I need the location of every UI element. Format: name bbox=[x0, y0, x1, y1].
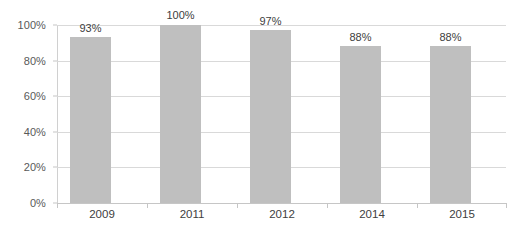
bars-layer bbox=[57, 25, 506, 203]
y-tick-label-0: 0% bbox=[30, 197, 46, 209]
bar-2012[interactable] bbox=[250, 30, 291, 203]
x-tick-label-2014: 2014 bbox=[332, 208, 412, 220]
bar-chart: 100% 80% 60% 40% 20% 0% 93% 100% 97% 88%… bbox=[0, 0, 513, 235]
data-label-2011: 100% bbox=[151, 9, 211, 21]
y-tick-label-20: 20% bbox=[24, 161, 46, 173]
x-tick-label-2012: 2012 bbox=[242, 208, 322, 220]
bar-2009[interactable] bbox=[70, 37, 111, 203]
bar-2011[interactable] bbox=[160, 25, 201, 203]
x-tick-label-2011: 2011 bbox=[152, 208, 232, 220]
x-tick-label-2015: 2015 bbox=[422, 208, 502, 220]
x-axis-line bbox=[57, 203, 506, 204]
bar-2015[interactable] bbox=[430, 46, 471, 203]
y-axis-labels: 100% 80% 60% 40% 20% 0% bbox=[0, 0, 52, 235]
x-axis-tick bbox=[417, 203, 418, 208]
x-axis-tick bbox=[327, 203, 328, 208]
x-axis-tick bbox=[57, 203, 58, 208]
data-label-2012: 97% bbox=[241, 15, 301, 27]
x-tick-label-2009: 2009 bbox=[62, 208, 142, 220]
x-axis-tick bbox=[147, 203, 148, 208]
data-label-2015: 88% bbox=[421, 31, 481, 43]
data-label-2009: 93% bbox=[61, 22, 121, 34]
y-tick-label-60: 60% bbox=[24, 90, 46, 102]
x-axis-tick bbox=[506, 203, 507, 208]
y-tick-label-40: 40% bbox=[24, 126, 46, 138]
y-tick-label-80: 80% bbox=[24, 55, 46, 67]
data-label-2014: 88% bbox=[331, 31, 391, 43]
bar-2014[interactable] bbox=[340, 46, 381, 203]
y-tick-label-100: 100% bbox=[17, 19, 46, 31]
x-axis-tick bbox=[237, 203, 238, 208]
